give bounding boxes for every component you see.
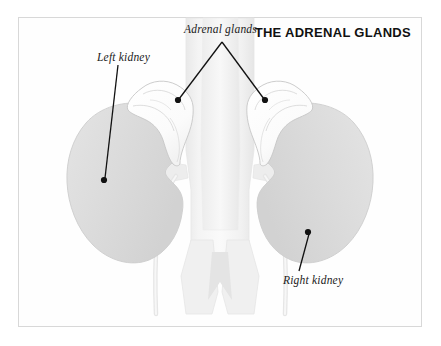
leader-dot-left-kidney [101, 177, 107, 183]
label-left-kidney: Left kidney [97, 51, 150, 63]
label-right-kidney: Right kidney [283, 274, 343, 286]
aorta-column [201, 18, 240, 230]
diagram-title: THE ADRENAL GLANDS [255, 25, 411, 40]
label-adrenal-glands: Adrenal glands [184, 23, 257, 35]
leader-dot-adrenal-right [262, 97, 268, 103]
leader-dot-adrenal-left [175, 97, 181, 103]
bifurcation-notch [208, 252, 232, 300]
diagram-page: THE ADRENAL GLANDS Adrenal glands Left k… [0, 0, 441, 346]
anatomy-illustration [0, 0, 441, 346]
leader-dot-right-kidney [305, 229, 311, 235]
